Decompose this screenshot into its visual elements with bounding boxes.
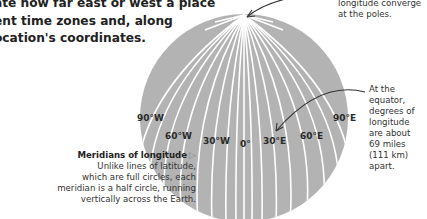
equator-note-line: 69 miles — [369, 139, 415, 150]
meridian-label-60e: 60°E — [300, 131, 323, 141]
equator-note-line: At the — [369, 84, 415, 95]
equator-note: At the equator, degrees of longitude are… — [369, 84, 415, 172]
meridian-label-30w: 30°W — [203, 136, 230, 146]
equator-note-line: longitude — [369, 117, 415, 128]
equator-note-line: apart. — [369, 161, 415, 172]
meridian-label-0: 0° — [240, 139, 251, 149]
meridian-label-60w: 60°W — [165, 131, 192, 141]
caption-line: vertically across the Earth. — [57, 194, 196, 205]
caption-line: meridian is a half circle, running — [57, 183, 196, 194]
triangle-pointer-icon: ▷ — [189, 150, 196, 161]
meridian-label-90e: 90°E — [333, 113, 356, 123]
meridian-label-30e: 30°E — [263, 136, 286, 146]
equator-note-line: degrees of — [369, 106, 415, 117]
meridian-caption: Meridians of longitude▷ Unlike lines of … — [57, 150, 196, 205]
meridian-label-90w: 90°W — [137, 113, 164, 123]
caption-line: which are full circles, each — [57, 172, 196, 183]
caption-line: Unlike lines of latitude, — [57, 161, 196, 172]
equator-note-line: (111 km) — [369, 150, 415, 161]
equator-note-line: equator, — [369, 95, 415, 106]
caption-title: Meridians of longitude — [77, 150, 187, 160]
equator-note-line: are about — [369, 128, 415, 139]
